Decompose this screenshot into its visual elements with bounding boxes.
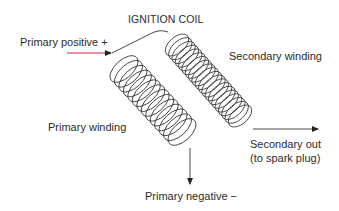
coil-turn	[114, 61, 151, 97]
coil-turn	[146, 94, 183, 130]
diagram-title: IGNITION COIL	[128, 13, 203, 26]
coil-turn	[128, 75, 165, 111]
coil-turn	[119, 65, 156, 101]
coil-turn	[154, 104, 191, 140]
label-primary-positive: Primary positive +	[20, 36, 108, 49]
coil-turn	[137, 85, 174, 121]
coil-turn	[123, 70, 160, 106]
label-secondary-out: Secondary out	[250, 138, 321, 151]
primary-to-secondary-wire	[112, 31, 168, 53]
coil-drawing	[0, 0, 339, 211]
secondary-coil-icon	[161, 30, 256, 132]
label-secondary-out-note: (to spark plug)	[250, 152, 320, 165]
coil-turn	[159, 109, 196, 145]
coil-turn	[163, 114, 200, 150]
coil-turn	[150, 99, 187, 135]
ignition-coil-diagram: IGNITION COIL Primary positive + Seconda…	[0, 0, 339, 211]
label-primary-negative: Primary negative −	[145, 190, 237, 203]
coil-turn	[110, 56, 147, 92]
coil-turn	[141, 90, 178, 126]
label-primary-winding: Primary winding	[48, 121, 126, 134]
coil-turn	[132, 80, 169, 116]
label-secondary-winding: Secondary winding	[229, 50, 322, 63]
coil-turn	[105, 51, 142, 87]
